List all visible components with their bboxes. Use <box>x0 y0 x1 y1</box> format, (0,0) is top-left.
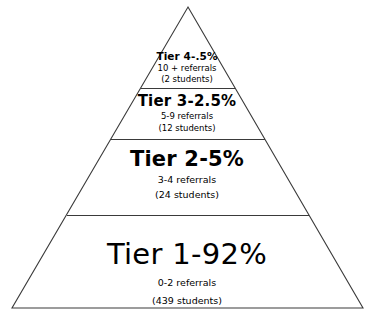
tier-2-label-group: Tier 2-5% 3-4 referrals (24 students) <box>0 147 374 201</box>
tier-1-students: (439 students) <box>0 296 374 307</box>
tier-3-label-group: Tier 3-2.5% 5-9 referrals (12 students) <box>0 93 374 134</box>
tier-1-referrals: 0-2 referrals <box>0 278 374 289</box>
tier-3-students: (12 students) <box>0 124 374 134</box>
tier-1-label-group: Tier 1-92% 0-2 referrals (439 students) <box>0 238 374 307</box>
tier-4-heading: Tier 4-.5% <box>0 50 374 62</box>
tier-4-students: (2 students) <box>0 75 374 85</box>
tier-3-heading: Tier 3-2.5% <box>0 93 374 110</box>
tier-2-referrals: 3-4 referrals <box>0 175 374 186</box>
tier-4-referrals: 10 + referrals <box>0 64 374 74</box>
referral-tier-pyramid-figure: Tier 4-.5% 10 + referrals (2 students) T… <box>0 0 374 317</box>
tier-3-referrals: 5-9 referrals <box>0 112 374 122</box>
tier-1-heading: Tier 1-92% <box>0 238 374 271</box>
tier-2-heading: Tier 2-5% <box>0 147 374 171</box>
tier-4-label-group: Tier 4-.5% 10 + referrals (2 students) <box>0 50 374 85</box>
tier-2-students: (24 students) <box>0 190 374 201</box>
